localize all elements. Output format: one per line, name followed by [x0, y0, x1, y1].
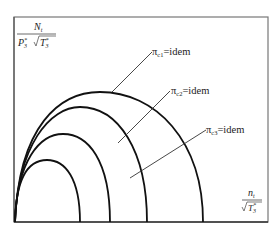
- curve-outer: [15, 92, 100, 222]
- label-pi-c2: πc2=idem: [171, 85, 209, 97]
- diagram-canvas: πc1=idem πc2=idem πc3=idem Nt P*3 T*3 nt…: [0, 0, 279, 234]
- label-pi-c3: πc3=idem: [206, 124, 244, 136]
- label-pi-c1: πc1=idem: [152, 46, 190, 58]
- leader-pi-c3: [130, 130, 206, 178]
- svg-text:nt: nt: [248, 187, 255, 199]
- curve-pi-c1: [15, 80, 55, 222]
- curve-pi-c3: [15, 107, 147, 222]
- svg-text:T*3: T*3: [40, 37, 49, 49]
- y-axis-label: Nt P*3 T*3: [17, 21, 56, 49]
- svg-text:Nt: Nt: [33, 21, 43, 33]
- svg-text:P*3: P*3: [17, 37, 27, 49]
- leader-pi-c1: [112, 52, 152, 92]
- x-axis-label: nt T*3: [242, 187, 262, 214]
- svg-text:T*3: T*3: [248, 202, 256, 214]
